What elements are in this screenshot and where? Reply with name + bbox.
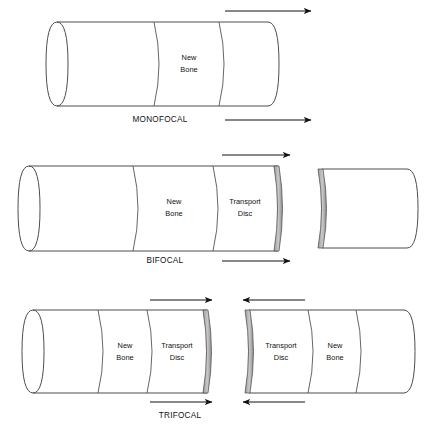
monofocal-new-bone-label-line2: Bone xyxy=(180,65,197,74)
trifocal-left-new-bone-line2: Bone xyxy=(116,353,133,362)
bifocal-distal-cut-face xyxy=(318,169,327,248)
bifocal-transport-disc-label-line2: Disc xyxy=(238,209,253,218)
trifocal-caption: TRIFOCAL xyxy=(159,411,202,420)
trifocal-right-new-bone-line2: Bone xyxy=(326,353,343,362)
trifocal-right-divider-1 xyxy=(308,310,313,393)
monofocal-divider-right xyxy=(219,22,224,106)
bifocal-new-bone-label-line1: New xyxy=(167,197,182,206)
trifocal-right-bone xyxy=(245,310,415,393)
monofocal-left-cap xyxy=(57,22,68,106)
trifocal-left-transport-disc-line2: Disc xyxy=(170,353,185,362)
monofocal-divider-left xyxy=(154,22,159,106)
panel-monofocal: New Bone MONOFOCAL xyxy=(46,11,311,124)
bifocal-left-cap xyxy=(29,166,40,251)
bone-transport-diagram: New Bone MONOFOCAL New Bone Transport Di… xyxy=(0,0,437,426)
panel-bifocal: New Bone Transport Disc BIFOCAL xyxy=(18,155,418,265)
bifocal-new-bone-label-line2: Bone xyxy=(165,209,182,218)
trifocal-right-transport-disc-line1: Transport xyxy=(265,341,296,350)
trifocal-left-new-bone-line1: New xyxy=(118,341,133,350)
trifocal-right-divider-2 xyxy=(356,310,361,393)
monofocal-caption: MONOFOCAL xyxy=(132,115,187,124)
trifocal-left-body xyxy=(22,310,207,393)
bifocal-distal-fragment xyxy=(318,169,418,248)
trifocal-left-transport-disc-line1: Transport xyxy=(161,341,192,350)
trifocal-right-body xyxy=(249,310,415,393)
trifocal-left-divider-2 xyxy=(147,310,152,393)
monofocal-bone xyxy=(46,22,279,106)
bifocal-caption: BIFOCAL xyxy=(147,256,184,265)
bifocal-divider-1 xyxy=(133,166,138,251)
trifocal-right-cut-face xyxy=(245,310,254,393)
trifocal-left-cap xyxy=(33,310,44,393)
bifocal-divider-2 xyxy=(213,166,218,251)
bifocal-transport-disc-label-line1: Transport xyxy=(229,197,260,206)
trifocal-right-new-bone-line1: New xyxy=(328,341,343,350)
bifocal-proximal-cut-face xyxy=(274,166,283,251)
trifocal-right-transport-disc-line2: Disc xyxy=(274,353,289,362)
panel-trifocal: New Bone Transport Disc Transport Disc N… xyxy=(22,300,415,420)
trifocal-left-bone xyxy=(22,310,212,393)
bifocal-distal-body xyxy=(322,169,418,248)
monofocal-new-bone-label-line1: New xyxy=(182,53,197,62)
monofocal-bone-body xyxy=(46,22,279,106)
trifocal-left-divider-1 xyxy=(98,310,103,393)
trifocal-left-cut-face xyxy=(203,310,212,393)
